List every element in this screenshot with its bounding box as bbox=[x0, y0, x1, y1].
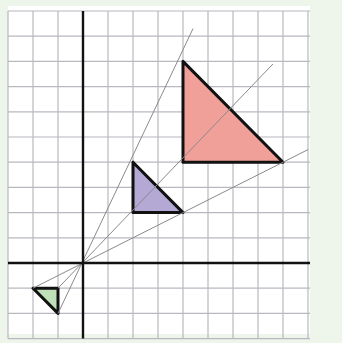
enlargement-diagram bbox=[0, 0, 342, 343]
grid-background bbox=[8, 6, 310, 334]
diagram-canvas bbox=[0, 0, 342, 343]
